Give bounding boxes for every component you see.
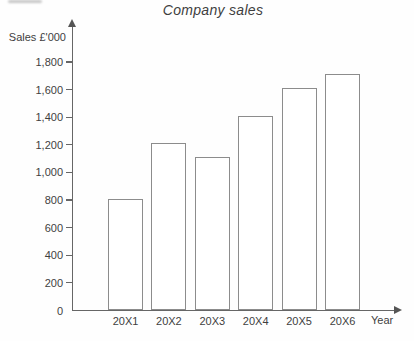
bar-20X5 xyxy=(282,88,317,310)
x-tick-label-20X4: 20X4 xyxy=(234,315,277,327)
y-tick-label: 800 xyxy=(0,194,63,206)
bar-20X4 xyxy=(238,116,273,311)
y-tick-label: 600 xyxy=(0,222,63,234)
y-axis-line xyxy=(72,24,73,311)
x-tick-label-20X6: 20X6 xyxy=(321,315,364,327)
y-tick-label: 1,800 xyxy=(0,56,63,68)
y-tick-label: 1,000 xyxy=(0,166,63,178)
x-tick-label-20X1: 20X1 xyxy=(104,315,147,327)
bar-20X2 xyxy=(151,143,186,310)
y-tick-label: 1,200 xyxy=(0,139,63,151)
x-axis-arrow-icon xyxy=(394,306,402,314)
y-tick-label: 200 xyxy=(0,277,63,289)
x-tick-label-20X3: 20X3 xyxy=(191,315,234,327)
bar-20X3 xyxy=(195,157,230,310)
x-axis-title: Year xyxy=(371,314,393,326)
bar-20X1 xyxy=(108,199,143,311)
y-axis-arrow-icon xyxy=(68,19,76,27)
x-axis-line xyxy=(72,310,396,311)
chart-title: Company sales xyxy=(0,2,414,18)
y-axis-label: Sales £'000 xyxy=(0,31,66,43)
y-tick-label: 1,400 xyxy=(0,111,63,123)
bar-20X6 xyxy=(325,74,360,310)
y-tick-label: 0 xyxy=(0,305,63,317)
x-tick-label-20X5: 20X5 xyxy=(277,315,320,327)
x-tick-label-20X2: 20X2 xyxy=(147,315,190,327)
y-tick-label: 1,600 xyxy=(0,84,63,96)
y-tick-label: 400 xyxy=(0,249,63,261)
bar-chart: Company sales Sales £'000 02004006008001… xyxy=(0,0,414,341)
